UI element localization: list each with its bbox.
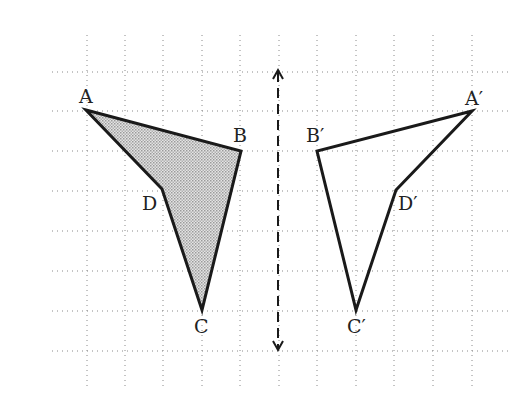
vertex-label-a: A bbox=[78, 85, 93, 107]
reflection-diagram: A B C D A′ B′ C′ D′ bbox=[0, 0, 529, 418]
dotted-grid bbox=[52, 35, 508, 388]
line-of-reflection bbox=[273, 70, 283, 350]
vertex-label-c: C bbox=[194, 315, 209, 337]
vertex-label-d-prime: D′ bbox=[398, 192, 418, 214]
vertex-label-a-prime: A′ bbox=[464, 87, 483, 109]
vertex-label-d: D bbox=[142, 192, 157, 214]
vertex-label-c-prime: C′ bbox=[347, 315, 366, 337]
vertex-label-b: B bbox=[233, 124, 247, 146]
vertex-label-b-prime: B′ bbox=[306, 124, 324, 146]
